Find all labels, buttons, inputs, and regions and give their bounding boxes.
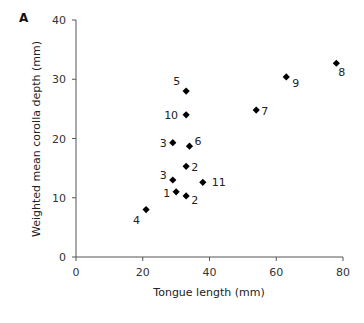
point-label: 3 xyxy=(160,137,167,150)
point-label: 6 xyxy=(194,135,201,148)
x-tick-label: 20 xyxy=(136,266,150,279)
point-label: 9 xyxy=(292,77,299,90)
data-points: 122334567891011 xyxy=(133,60,345,227)
y-tick-label: 30 xyxy=(52,73,66,86)
y-tick-label: 20 xyxy=(52,133,66,146)
diamond-marker xyxy=(283,73,290,80)
point-label: 2 xyxy=(191,161,198,174)
diamond-marker xyxy=(253,106,260,113)
x-tick-label: 60 xyxy=(269,266,283,279)
y-tick-label: 40 xyxy=(52,14,66,27)
point-label: 10 xyxy=(164,109,178,122)
diamond-marker xyxy=(173,188,180,195)
x-axis-title: Tongue length (mm) xyxy=(152,286,264,299)
y-axis-title: Weighted mean corolla depth (mm) xyxy=(30,41,43,237)
scatter-chart: 010203040020406080 122334567891011 Tongu… xyxy=(0,0,364,323)
x-tick-label: 40 xyxy=(203,266,217,279)
y-tick-label: 0 xyxy=(59,251,66,264)
diamond-marker xyxy=(199,179,206,186)
diamond-marker xyxy=(169,176,176,183)
point-label: 2 xyxy=(191,194,198,207)
diamond-marker xyxy=(183,88,190,95)
point-label: 7 xyxy=(261,105,268,118)
point-label: 11 xyxy=(212,176,226,189)
x-tick-label: 80 xyxy=(336,266,350,279)
x-tick-label: 0 xyxy=(73,266,80,279)
diamond-marker xyxy=(183,111,190,118)
point-label: 5 xyxy=(173,75,180,88)
point-label: 4 xyxy=(133,214,140,227)
diamond-marker xyxy=(169,139,176,146)
point-label: 8 xyxy=(338,66,345,79)
diamond-marker xyxy=(183,163,190,170)
diamond-marker xyxy=(183,192,190,199)
point-label: 1 xyxy=(163,187,170,200)
y-tick-label: 10 xyxy=(52,192,66,205)
diamond-marker xyxy=(186,143,193,150)
diamond-marker xyxy=(142,206,149,213)
point-label: 3 xyxy=(160,169,167,182)
